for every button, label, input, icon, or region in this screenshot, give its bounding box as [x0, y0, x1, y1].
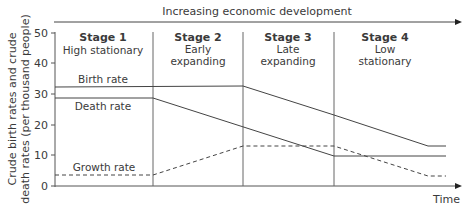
- y-tick-50: 50: [34, 27, 48, 40]
- demographic-transition-diagram: Increasing economic development 0 10 20 …: [0, 0, 463, 210]
- death-rate-label: Death rate: [75, 100, 131, 112]
- stage-4-subtitle-line1: Low: [375, 43, 396, 55]
- stage-1-subtitle: High stationary: [63, 44, 144, 56]
- y-tick-20: 20: [34, 119, 48, 132]
- y-ticks: [51, 33, 55, 186]
- y-axis-label-line1: Crude birth rates and crude: [6, 32, 19, 185]
- y-tick-0: 0: [41, 180, 48, 193]
- y-tick-40: 40: [34, 57, 48, 70]
- birth-rate-label: Birth rate: [78, 73, 128, 85]
- stage-1-title: Stage 1: [79, 31, 126, 44]
- development-arrow-label: Increasing economic development: [162, 5, 352, 18]
- stage-2-subtitle-line1: Early: [185, 43, 212, 55]
- stage-3-subtitle-line1: Late: [277, 43, 300, 55]
- stage-4-subtitle-line2: stationary: [358, 55, 411, 67]
- growth-rate-label: Growth rate: [73, 161, 136, 173]
- stage-2-subtitle-line2: expanding: [170, 55, 225, 67]
- x-axis-label: Time: [432, 193, 460, 206]
- birth-rate-line: [55, 86, 446, 146]
- stage-3-subtitle-line2: expanding: [260, 55, 315, 67]
- y-axis-label-line2: death rates (per thousand people): [19, 14, 32, 203]
- x-axis-arrow-icon: [455, 183, 462, 189]
- y-tick-10: 10: [34, 149, 48, 162]
- y-tick-30: 30: [34, 88, 48, 101]
- arrow-head-icon: [455, 19, 462, 25]
